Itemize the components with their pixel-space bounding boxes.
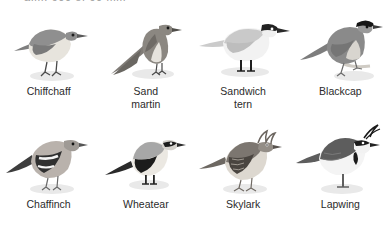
caption-line-2: tern [196,98,290,111]
page-top-heading-fragment: a.m. 600 of 60 mm [24,0,364,3]
caption-line-1: Chiffchaff [2,85,96,98]
caption-line-1: Lapwing [293,198,387,211]
bird-card-sandwich-tern[interactable]: Sandwich tern [195,6,292,119]
bird-caption-sandwich-tern: Sandwich tern [196,85,290,111]
bird-caption-wheatear: Wheatear [99,198,193,211]
bird-caption-skylark: Skylark [196,198,290,211]
bird-card-chiffchaff[interactable]: Chiffchaff [0,6,97,119]
bird-sandwich-tern-icon [195,6,292,84]
bird-wheatear-icon [97,119,194,197]
caption-line-1: Sandwich [196,85,290,98]
bird-caption-chiffchaff: Chiffchaff [2,85,96,98]
bird-caption-sand-martin: Sand martin [99,85,193,111]
bird-card-lapwing[interactable]: Lapwing [292,119,389,239]
bird-caption-lapwing: Lapwing [293,198,387,211]
bird-blackcap-icon [292,6,389,84]
bird-card-skylark[interactable]: Skylark [195,119,292,239]
caption-line-2: martin [99,98,193,111]
bird-caption-blackcap: Blackcap [293,85,387,98]
bird-card-sand-martin[interactable]: Sand martin [97,6,194,119]
caption-line-1: Wheatear [99,198,193,211]
bird-skylark-icon [195,119,292,197]
bird-card-blackcap[interactable]: Blackcap [292,6,389,119]
bird-lapwing-icon [292,119,389,197]
caption-line-1: Chaffinch [2,198,96,211]
bird-card-wheatear[interactable]: Wheatear [97,119,194,239]
bird-grid: Chiffchaff Sand martin [0,6,389,239]
bird-identification-sheet: a.m. 600 of 60 mm Chiffchaff [0,0,389,247]
bird-chiffchaff-icon [0,6,97,84]
bird-chaffinch-icon [0,119,97,197]
bird-card-chaffinch[interactable]: Chaffinch [0,119,97,239]
bird-sand-martin-icon [97,6,194,84]
caption-line-1: Sand [99,85,193,98]
caption-line-1: Skylark [196,198,290,211]
bird-caption-chaffinch: Chaffinch [2,198,96,211]
caption-line-1: Blackcap [293,85,387,98]
